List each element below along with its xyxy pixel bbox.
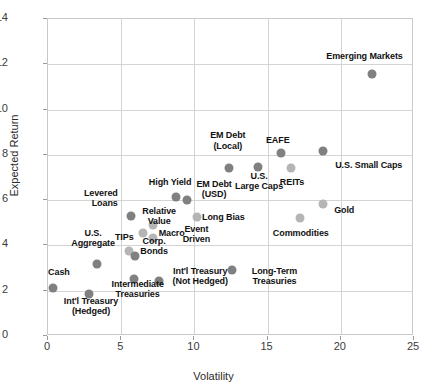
x-tick-mark xyxy=(47,336,48,340)
data-point xyxy=(126,211,135,220)
point-label: Long-Term Treasuries xyxy=(252,266,297,286)
data-point xyxy=(228,266,237,275)
point-label: REITs xyxy=(280,177,304,187)
point-label: Event Driven xyxy=(183,224,210,244)
y-tick-label: 14 xyxy=(0,12,8,23)
point-label: U.S. Aggregate xyxy=(71,228,115,248)
y-tick-label: 8 xyxy=(0,148,8,159)
data-point xyxy=(49,284,58,293)
gridline-horizontal xyxy=(48,291,412,292)
data-point xyxy=(183,196,192,205)
point-label: Commodities xyxy=(273,228,329,238)
gridline-horizontal xyxy=(48,155,412,156)
gridline-vertical xyxy=(194,19,195,334)
x-tick-label: 5 xyxy=(100,341,140,352)
point-label: EM Debt (Local) xyxy=(210,130,245,150)
data-point xyxy=(276,148,285,157)
x-tick-label: 10 xyxy=(173,341,213,352)
data-point xyxy=(93,259,102,268)
point-label: EM Debt (USD) xyxy=(196,179,231,199)
x-tick-mark xyxy=(267,336,268,340)
x-tick-mark xyxy=(413,336,414,340)
point-label: High Yield xyxy=(149,177,192,187)
plot-area xyxy=(47,18,413,335)
x-tick-mark xyxy=(193,336,194,340)
point-label: Macro xyxy=(159,228,185,238)
point-label: Corp. Bonds xyxy=(140,236,168,256)
data-point xyxy=(367,70,376,79)
point-label: EAFE xyxy=(266,135,290,145)
data-point xyxy=(131,251,140,260)
y-tick-label: 4 xyxy=(0,238,8,249)
x-tick-mark xyxy=(120,336,121,340)
point-label: Intermediate Treasuries xyxy=(111,279,163,299)
x-tick-label: 0 xyxy=(27,341,67,352)
data-point xyxy=(319,147,328,156)
data-point xyxy=(193,213,202,222)
y-axis-title: Expected Return xyxy=(9,86,20,226)
point-label: TIPs xyxy=(115,232,134,242)
data-point xyxy=(224,164,233,173)
data-point xyxy=(319,199,328,208)
data-point xyxy=(295,214,304,223)
point-label: Levered Loans xyxy=(84,188,118,208)
point-label: Int'l Treasury (Hedged) xyxy=(64,296,118,316)
point-label: Relative Value xyxy=(142,206,176,226)
x-tick-mark xyxy=(340,336,341,340)
point-label: U.S. Small Caps xyxy=(335,160,402,170)
gridline-horizontal xyxy=(48,110,412,111)
gridline-horizontal xyxy=(48,64,412,65)
x-tick-label: 25 xyxy=(393,341,427,352)
scatter-chart: Expected Return Volatility 02468101214 0… xyxy=(0,0,427,392)
point-label: Emerging Markets xyxy=(326,51,402,61)
y-tick-label: 2 xyxy=(0,284,8,295)
data-point xyxy=(287,164,296,173)
x-tick-label: 15 xyxy=(247,341,287,352)
x-tick-label: 20 xyxy=(320,341,360,352)
gridline-vertical xyxy=(341,19,342,334)
point-label: U.S. Large Caps xyxy=(235,171,283,191)
point-label: Int'l Treasury (Not Hedged) xyxy=(173,266,228,286)
point-label: Long Bias xyxy=(202,212,245,222)
data-point xyxy=(172,192,181,201)
y-tick-label: 12 xyxy=(0,57,8,68)
point-label: Cash xyxy=(48,267,70,277)
point-label: Gold xyxy=(334,205,354,215)
y-tick-label: 0 xyxy=(0,329,8,340)
x-axis-title: Volatility xyxy=(0,371,427,382)
y-tick-label: 6 xyxy=(0,193,8,204)
y-tick-label: 10 xyxy=(0,103,8,114)
